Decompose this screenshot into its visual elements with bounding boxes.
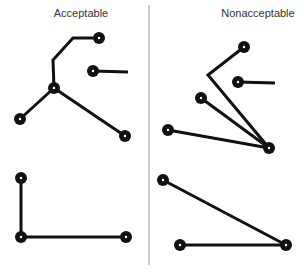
- node-center-dot: [268, 147, 270, 149]
- node-center-dot: [124, 135, 126, 137]
- node-center-dot: [98, 37, 100, 39]
- node-center-dot: [237, 81, 239, 83]
- right-top-connector-line: [168, 130, 269, 148]
- node-center-dot: [285, 244, 287, 246]
- right-top-connector-line: [208, 47, 269, 148]
- node-center-dot: [20, 177, 22, 179]
- left-top-connector-line: [53, 38, 99, 88]
- node-center-dot: [53, 87, 55, 89]
- right-bottom-connector-line: [163, 180, 286, 245]
- connector-diagram: [0, 0, 304, 272]
- node-center-dot: [20, 236, 22, 238]
- node-center-dot: [125, 236, 127, 238]
- node-center-dot: [243, 46, 245, 48]
- left-top-connector-line: [20, 88, 54, 119]
- left-top-connector-line: [54, 88, 125, 136]
- node-center-dot: [167, 129, 169, 131]
- node-center-dot: [92, 70, 94, 72]
- node-center-dot: [200, 97, 202, 99]
- node-center-dot: [179, 244, 181, 246]
- node-center-dot: [19, 118, 21, 120]
- node-center-dot: [162, 179, 164, 181]
